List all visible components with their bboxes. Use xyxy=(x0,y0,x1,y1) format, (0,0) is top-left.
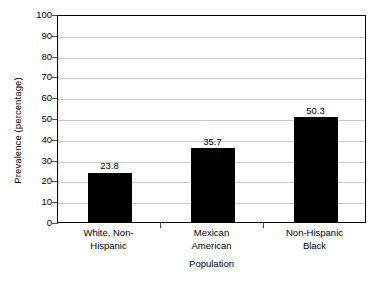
bar-chart: Prevalence (percentage) 1009080706050403… xyxy=(0,0,379,281)
y-axis-tick-label: 10 xyxy=(26,197,52,207)
x-axis-title: Population xyxy=(57,258,366,270)
y-axis-tick-label: 30 xyxy=(26,156,52,166)
plot-area: 23.835.750.3 xyxy=(57,15,366,223)
bar xyxy=(294,117,338,222)
y-axis-tick-label: 60 xyxy=(26,93,52,103)
y-axis-tick-label: 80 xyxy=(26,52,52,62)
x-axis-category-label: White, Non- Hispanic xyxy=(57,227,160,252)
y-axis-title: Prevalence (percentage) xyxy=(9,18,27,243)
bar-value-label: 35.7 xyxy=(183,136,243,147)
bars-layer: 23.835.750.3 xyxy=(58,16,365,222)
y-axis-tick-label: 0 xyxy=(26,218,52,228)
y-axis-tick-label: 90 xyxy=(26,31,52,41)
y-axis-tick-label: 70 xyxy=(26,72,52,82)
x-axis-category-label: Mexican American xyxy=(160,227,263,252)
y-axis-tick-label: 40 xyxy=(26,135,52,145)
bar-value-label: 50.3 xyxy=(286,105,346,116)
bar xyxy=(88,173,132,223)
bar-value-label: 23.8 xyxy=(80,160,140,171)
y-axis-tick-label: 100 xyxy=(26,10,52,20)
y-axis-tick-labels: 1009080706050403020100 xyxy=(26,0,52,281)
bar xyxy=(191,148,235,222)
y-axis-tick-label: 20 xyxy=(26,176,52,186)
x-axis-category-labels: White, Non- HispanicMexican AmericanNon-… xyxy=(57,227,366,257)
x-axis-category-label: Non-Hispanic Black xyxy=(263,227,366,252)
y-axis-tick-label: 50 xyxy=(26,114,52,124)
